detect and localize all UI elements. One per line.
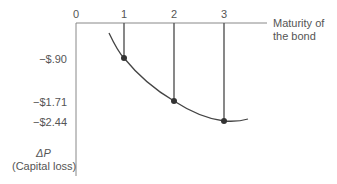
x-tick-3: 3 <box>221 8 227 20</box>
capital-loss-curve <box>109 33 248 121</box>
data-point-2 <box>171 98 177 104</box>
y-tick-171: −$1.71 <box>7 96 67 108</box>
y-tick-090: −$.90 <box>7 53 67 65</box>
x-axis-label-line1: Maturity of <box>273 17 324 29</box>
x-tick-2: 2 <box>171 8 177 20</box>
x-axis-label-line2: the bond <box>273 30 316 42</box>
y-tick-244: −$2.44 <box>7 116 67 128</box>
x-tick-1: 1 <box>121 8 127 20</box>
data-point-1 <box>121 55 127 61</box>
y-axis-label: (Capital loss) <box>12 160 76 172</box>
y-axis-symbol: ΔP <box>36 147 51 159</box>
x-tick-0: 0 <box>73 8 79 20</box>
data-point-3 <box>221 118 227 124</box>
